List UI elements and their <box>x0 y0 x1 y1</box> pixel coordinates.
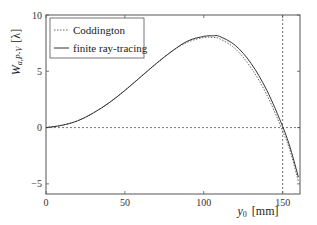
y-tick-label: 10 <box>32 10 42 21</box>
coddington-line <box>46 37 298 181</box>
y-tick-label: 0 <box>37 122 42 133</box>
x-axis-label: y0[mm] <box>237 204 279 219</box>
y-axis-label: Wa,P-V[λ] <box>9 29 24 75</box>
x-tick-label: 0 <box>44 197 49 208</box>
y-tick-label: −5 <box>31 178 42 189</box>
legend-label: Coddington <box>73 24 125 36</box>
chart-canvas: 050100150−50510Coddingtonfinite ray-trac… <box>0 0 317 225</box>
x-tick-label: 50 <box>120 197 130 208</box>
x-tick-label: 100 <box>196 197 211 208</box>
legend-label: finite ray-tracing <box>73 42 148 54</box>
legend: Coddingtonfinite ray-tracing <box>50 18 148 58</box>
y-tick-label: 5 <box>37 66 42 77</box>
